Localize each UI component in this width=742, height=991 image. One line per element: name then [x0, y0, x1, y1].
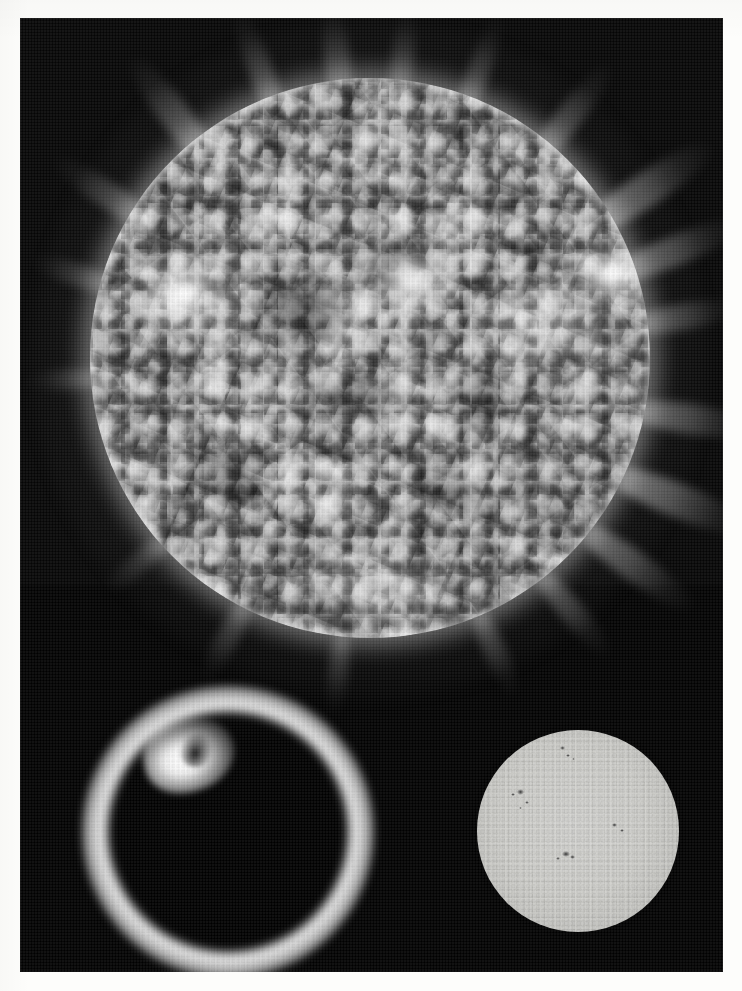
active-region: [135, 257, 230, 330]
solar-disk-euv: [90, 78, 650, 638]
panel-chromosphere-ring: [82, 686, 374, 972]
filament-channel: [258, 369, 448, 425]
filament-channel: [392, 470, 515, 520]
sunspot: [519, 807, 522, 809]
sunspot: [612, 823, 617, 827]
sunspot: [560, 746, 565, 750]
panel-photosphere-whitelight: [477, 730, 679, 932]
active-region: [101, 504, 168, 554]
sunspot: [562, 851, 570, 857]
sunspot: [566, 754, 570, 757]
sunspot: [517, 789, 524, 795]
sunspot: [511, 793, 515, 796]
active-region: [297, 481, 359, 526]
bright-corona-band: [258, 537, 504, 638]
photographic-plate: [20, 18, 723, 972]
sunspot: [572, 758, 575, 760]
panel-corona-euv: [90, 78, 650, 640]
active-region: [560, 235, 650, 313]
active-region: [359, 240, 465, 324]
sunspot: [525, 801, 529, 804]
sunspot: [570, 855, 575, 859]
photograph-page: [0, 0, 742, 991]
sunspot: [556, 857, 560, 860]
sunspot: [620, 829, 624, 832]
coronal-hole: [168, 414, 280, 526]
sunspot-layer: [477, 730, 679, 932]
